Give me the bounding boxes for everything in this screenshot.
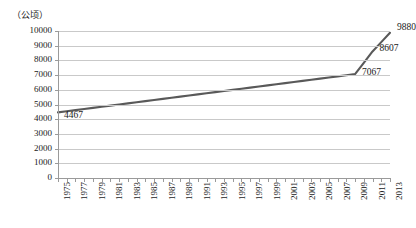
y-axis-line (58, 31, 59, 178)
y-axis-tick-label: 10000 (6, 25, 52, 35)
x-axis-tick (250, 178, 251, 182)
x-axis-tick (58, 178, 59, 182)
y-axis-tick-label: 9000 (6, 40, 52, 50)
x-axis-tick (93, 178, 94, 182)
x-axis-tick (180, 178, 181, 182)
x-axis-tick-label: 1995 (237, 182, 247, 200)
x-axis-tick-label: 2001 (289, 182, 299, 200)
x-axis-tick (145, 178, 146, 182)
x-axis-tick (75, 178, 76, 182)
data-point-label: 4467 (64, 110, 83, 120)
gridline (58, 134, 390, 135)
gridline (58, 149, 390, 150)
y-axis-tick-label: 8000 (6, 54, 52, 64)
x-axis-tick-label: 1981 (114, 182, 124, 200)
x-axis-tick (215, 178, 216, 182)
x-axis-tick (320, 178, 321, 182)
gridline (58, 60, 390, 61)
x-axis-tick (338, 178, 339, 182)
x-axis-tick (198, 178, 199, 182)
y-axis-tick-label: 2000 (6, 143, 52, 153)
y-axis-tick-label: 5000 (6, 99, 52, 109)
x-axis-tick-label: 1991 (202, 182, 212, 200)
gridline (58, 46, 390, 47)
x-axis-tick-label: 1985 (149, 182, 159, 200)
gridline (58, 90, 390, 91)
y-axis-unit-label: （公顷） (12, 8, 48, 21)
plot-area (58, 31, 390, 178)
y-axis-tick-label: 4000 (6, 113, 52, 123)
gridline (58, 31, 390, 32)
x-axis-tick-label: 1979 (97, 182, 107, 200)
gridline (58, 119, 390, 120)
x-axis-tick (268, 178, 269, 182)
x-axis-tick (285, 178, 286, 182)
gridline (58, 75, 390, 76)
x-axis-tick-label: 2007 (342, 182, 352, 200)
x-axis-tick-label: 1993 (219, 182, 229, 200)
x-axis-tick (128, 178, 129, 182)
y-axis-tick-label: 3000 (6, 128, 52, 138)
x-axis-tick-label: 1975 (62, 182, 72, 200)
x-axis-tick-label: 2009 (359, 182, 369, 200)
x-axis-tick (233, 178, 234, 182)
x-axis-tick (163, 178, 164, 182)
data-point-label: 9880 (397, 22, 416, 32)
x-axis-tick-label: 1987 (167, 182, 177, 200)
y-axis-tick-label: 6000 (6, 84, 52, 94)
x-axis-tick-label: 1989 (184, 182, 194, 200)
x-axis-tick-label: 2005 (324, 182, 334, 200)
x-axis-tick-label: 1983 (132, 182, 142, 200)
x-axis-tick (355, 178, 356, 182)
x-axis-tick (303, 178, 304, 182)
y-axis-tick-label: 0 (6, 172, 52, 182)
y-axis-tick-label: 1000 (6, 157, 52, 167)
x-axis-tick-label: 1997 (254, 182, 264, 200)
x-axis-tick-label: 1999 (272, 182, 282, 200)
data-point-label: 8607 (380, 43, 399, 53)
y-axis-tick-label: 7000 (6, 69, 52, 79)
x-axis-tick-label: 1977 (79, 182, 89, 200)
x-axis-tick-label: 2003 (307, 182, 317, 200)
gridline (58, 163, 390, 164)
x-axis-tick (373, 178, 374, 182)
x-axis-tick-label: 2011 (377, 182, 387, 200)
gridline (58, 105, 390, 106)
x-axis-tick (390, 178, 391, 182)
x-axis-tick-label: 2013 (394, 182, 404, 200)
data-point-label: 7067 (362, 67, 381, 77)
x-axis-tick (110, 178, 111, 182)
